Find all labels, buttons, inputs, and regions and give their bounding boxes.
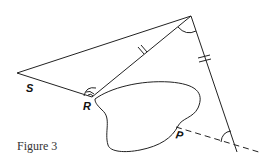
angle-arc-bottom-right bbox=[221, 131, 231, 142]
equal-length-tick-right bbox=[198, 55, 211, 62]
line-s-to-apex bbox=[17, 16, 191, 73]
line-r-to-apex bbox=[92, 16, 191, 97]
label-s: S bbox=[26, 82, 34, 94]
figure-caption: Figure 3 bbox=[17, 139, 57, 154]
dashed-line-p-extension bbox=[176, 127, 262, 153]
double-angle-arc-r bbox=[86, 91, 94, 94]
irregular-region-blob bbox=[95, 82, 200, 152]
label-r: R bbox=[83, 100, 91, 112]
angle-arc-apex bbox=[178, 27, 196, 33]
label-p: P bbox=[175, 128, 185, 141]
